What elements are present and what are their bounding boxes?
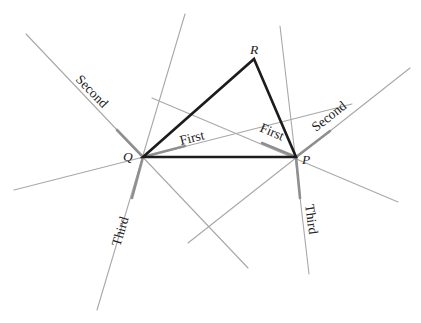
label-q-first: First — [178, 127, 206, 148]
segment-p-third — [296, 157, 300, 198]
label-p-second: Second — [309, 98, 350, 134]
label-q-third: Third — [109, 215, 132, 248]
vertex-label-p: P — [301, 152, 310, 167]
triangle-diagram: Q P R Second First Third First Second Th… — [0, 0, 421, 323]
label-p-third: Third — [302, 203, 321, 235]
triangle-pqr — [143, 59, 296, 157]
vertex-label-q: Q — [123, 149, 133, 164]
vertex-label-r: R — [249, 42, 259, 57]
line-p-first — [152, 98, 398, 202]
label-q-second: Second — [73, 72, 112, 111]
segment-q-third — [132, 157, 143, 198]
